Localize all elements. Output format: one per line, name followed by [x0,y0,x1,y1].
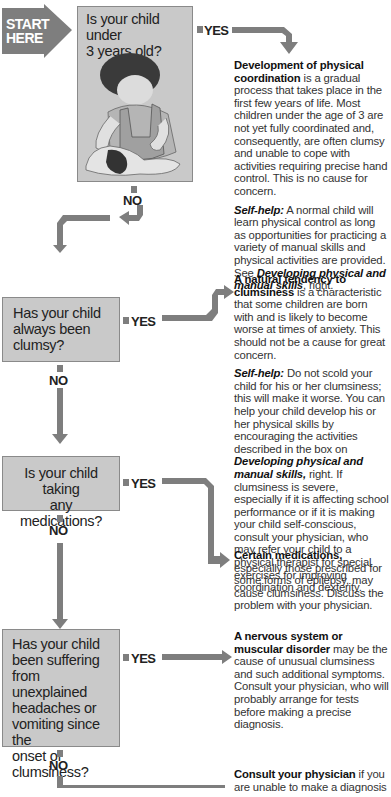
no-label-q4: NO [49,758,68,773]
arrow-q2-no-shaft [57,388,63,436]
question-box-always-clumsy: Has your child always been clumsy? [2,297,120,362]
no-marker [131,186,137,193]
yes-marker [197,26,203,33]
question-box-headaches-vomiting: Has your child been suffering from unexp… [2,629,120,747]
answer-development-coordination: Development of physical coordination is … [234,59,389,298]
arrow-q4-no-horizontal [60,785,225,788]
arrow-q3-no-shaft [57,543,63,621]
yes-marker [123,479,129,486]
arrow-q2-yes-icon [162,281,237,331]
yes-marker [123,317,129,324]
answer-certain-medications: Certain medications, especially those pr… [234,549,389,618]
yes-label-q2: YES [131,314,156,329]
yes-marker [123,654,129,661]
yes-label-q1: YES [204,23,229,38]
link-developing-skills[interactable]: Developing physical and manual skills, [234,455,363,480]
no-label-q3: NO [49,523,68,538]
start-label: START HERE [6,17,49,45]
yes-label-q4: YES [131,651,156,666]
no-marker [57,750,63,757]
arrow-q1-yes-icon [232,24,312,64]
arrow-q2-no-head-icon [52,434,68,446]
child-illustration-icon [80,42,190,180]
arrow-q1-no-icon [55,205,145,255]
no-label-q2: NO [49,373,68,388]
answer-consult-physician: Consult your physician if you are unable… [234,768,389,797]
arrow-q4-yes-icon [162,650,237,670]
question-box-medications: Is your child taking any medications? [2,456,120,511]
answer-nervous-system-disorder: A nervous system or muscular disorder ma… [234,630,389,737]
no-marker [57,515,63,522]
yes-label-q3: YES [131,476,156,491]
arrow-q3-yes-icon [162,478,237,568]
no-marker [57,365,63,372]
